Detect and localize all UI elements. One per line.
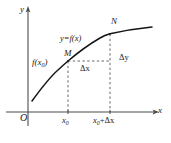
x-axis-label: x (158, 106, 162, 115)
origin-label: O (20, 113, 27, 123)
function-curve (32, 27, 152, 101)
tick-x0dx-rest: +Δx (100, 115, 115, 125)
tick-x0-subscript: 0 (66, 120, 69, 126)
curve-equation-label: y=f(x) (60, 34, 81, 43)
delta-x-label: Δx (80, 64, 90, 73)
delta-y-label: Δy (119, 53, 129, 62)
tick-label-x0-plus-delta-x: x0+Δx (93, 116, 114, 125)
f-x0-value-label: f(x0) (32, 58, 48, 67)
tick-label-x0: x0 (62, 116, 69, 125)
point-label-M: M (64, 49, 72, 58)
f-x0-subscript: 0 (42, 62, 45, 68)
point-marker-N (109, 33, 111, 35)
derivative-increment-figure: y x O y=f(x) M N f(x0) Δx Δy x0 x0+Δx (0, 0, 171, 143)
tick-x0dx-subscript: 0 (97, 120, 100, 126)
point-marker-M (67, 60, 69, 62)
y-axis-label: y (20, 5, 24, 14)
f-x0-close: ) (45, 57, 48, 67)
point-label-N: N (111, 17, 117, 26)
f-x0-base: f(x (32, 57, 42, 67)
